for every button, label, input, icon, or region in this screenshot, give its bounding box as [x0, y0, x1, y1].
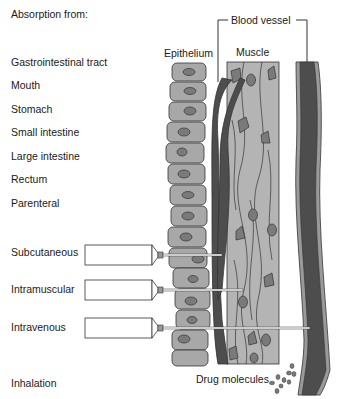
label-epithelium: Epithelium — [164, 48, 213, 59]
label-drug-molecules: Drug molecules — [196, 374, 269, 385]
absorption-diagram — [0, 0, 338, 399]
muscle-tissue — [227, 62, 279, 364]
label-muscle: Muscle — [236, 47, 269, 58]
blood-vessel — [296, 62, 330, 395]
drug-molecules — [270, 364, 297, 394]
label-blood-vessel: Blood vessel — [230, 15, 292, 26]
